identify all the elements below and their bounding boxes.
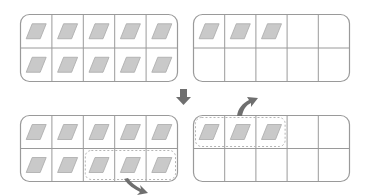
down-arrow-icon	[176, 89, 191, 105]
diagram-canvas	[0, 0, 366, 195]
ten-frame-top-left	[21, 15, 178, 82]
curved-arrow-up-icon	[237, 97, 258, 116]
ten-frame-bottom-left	[21, 116, 178, 182]
ten-frame-bottom-right	[194, 116, 350, 182]
ten-frame-top-right	[194, 15, 350, 82]
